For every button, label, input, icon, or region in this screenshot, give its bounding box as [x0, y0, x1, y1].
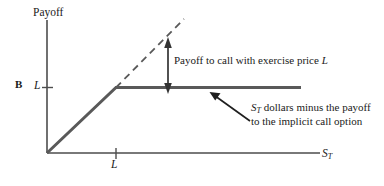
panel-label-b: B [15, 78, 23, 91]
x-axis-tick-label-L: L [111, 158, 117, 172]
call-payoff-annotation-text: Payoff to call with exercise price [174, 54, 322, 66]
y-axis-title: Payoff [33, 6, 63, 20]
call-payoff-annotation: Payoff to call with exercise price L [174, 54, 328, 67]
call-payoff-annotation-variable: L [322, 54, 328, 66]
payoff-diagram-figure: B Payoff L L ST Payoff to call with exer… [0, 0, 384, 186]
implicit-call-annotation-line1-rest: dollars minus the payoff [261, 101, 371, 113]
y-axis-tick-label-L: L [34, 79, 40, 93]
x-axis-title-subscript: T [328, 152, 332, 161]
x-axis-title: ST [322, 147, 332, 161]
implicit-call-annotation-line2: to the implicit call option [251, 115, 371, 128]
implicit-call-annotation: ST dollars minus the payoffto the implic… [251, 101, 371, 128]
implicit-call-pointer-arrow [210, 92, 251, 121]
implicit-call-annotation-line1: ST dollars minus the payoff [251, 101, 371, 115]
call-payoff-gap-arrow [164, 37, 172, 94]
